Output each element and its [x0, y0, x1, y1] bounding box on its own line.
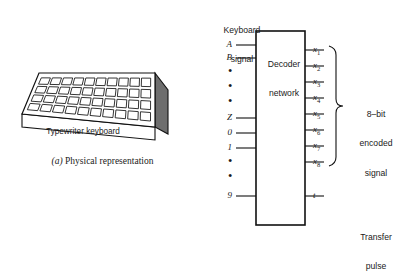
- output-terminal-subscript: 5: [317, 113, 320, 120]
- input-terminal-label: Z: [218, 112, 232, 122]
- keyboard-key: [141, 89, 151, 98]
- input-terminal-label: B: [218, 52, 232, 62]
- output-terminal-subscript: 6: [317, 129, 320, 136]
- input-ellipsis-dot: •: [218, 170, 232, 181]
- output-terminal-subscript: 3: [317, 81, 320, 88]
- keyboard-key: [128, 111, 139, 120]
- keyboard-key: [50, 78, 62, 85]
- typewriter-keyboard-illustration: Typewriter keyboard: [14, 68, 194, 150]
- encoded-signal-label-line1: 8–bit: [345, 110, 407, 120]
- keyboard-key: [128, 100, 138, 109]
- output-terminal-label: x7: [313, 140, 320, 152]
- keyboard-key: [141, 78, 150, 87]
- keyboard-key: [130, 78, 140, 86]
- keyboard-key: [118, 78, 128, 86]
- keyboard-key: [107, 78, 117, 86]
- output-terminal-label: x8: [313, 156, 320, 168]
- output-terminal-label: x4: [313, 92, 320, 104]
- keyboard-key: [115, 110, 126, 119]
- keyboard-key: [103, 109, 114, 118]
- keyboard-key: [90, 108, 101, 116]
- decoder-block-diagram-panel: Keyboard signal Decoder network AB•••Z01…: [205, 0, 411, 250]
- keyboard-key: [31, 95, 44, 102]
- output-terminal-label: x5: [313, 108, 320, 120]
- typewriter-keyboard-label: Typewriter keyboard: [28, 127, 138, 136]
- encoded-signal-label-line2: encoded: [345, 139, 407, 149]
- keyboard-drawing: [14, 68, 194, 150]
- keyboard-key: [104, 99, 115, 107]
- input-terminal-label: 0: [218, 127, 232, 137]
- keyboard-key: [92, 98, 103, 106]
- keyboard-key: [106, 88, 117, 96]
- keyboard-key: [68, 97, 80, 105]
- physical-representation-panel: Typewriter keyboard (a) Physical represe…: [0, 0, 205, 250]
- keyboard-key: [65, 106, 77, 114]
- decoder-network-label: Decoder network: [260, 40, 308, 119]
- keyboard-right-face: [155, 73, 168, 134]
- figure-caption-a-label: (a): [52, 156, 63, 166]
- keyboard-key: [78, 107, 90, 115]
- output-terminal-label: x3: [313, 76, 320, 88]
- keyboard-key: [43, 96, 55, 103]
- input-ellipsis-dot: •: [218, 65, 232, 76]
- keyboard-key: [94, 88, 105, 96]
- transfer-pulse-label: Transfer pulse: [345, 213, 407, 275]
- input-ellipsis-dot: •: [218, 80, 232, 91]
- input-terminal-label: 1: [218, 142, 232, 152]
- output-terminal-label: x6: [313, 124, 320, 136]
- encoded-signal-label: 8–bit encoded signal: [345, 90, 407, 199]
- keyboard-key: [96, 78, 107, 86]
- output-terminal-label: x1: [313, 44, 320, 56]
- keyboard-key: [80, 97, 91, 105]
- transfer-pulse-label-line2: pulse: [345, 262, 407, 272]
- transfer-pulse-label-line1: Transfer: [345, 233, 407, 243]
- keyboard-key: [82, 88, 93, 96]
- figure-caption-a: (a) Physical representation: [0, 156, 205, 166]
- keyboard-key: [58, 87, 70, 94]
- output-terminal-subscript: 4: [317, 97, 320, 104]
- keyboard-key: [141, 101, 151, 110]
- decoder-network-label-line2: network: [260, 89, 308, 99]
- figure-caption-a-text: Physical representation: [65, 156, 153, 166]
- keyboard-key: [61, 78, 72, 85]
- input-terminal-label: A: [218, 39, 232, 49]
- keyboard-key: [52, 105, 64, 113]
- keyboard-key: [40, 104, 53, 111]
- keyboard-key: [84, 78, 95, 85]
- keyboard-key: [129, 89, 139, 98]
- keyboard-key: [70, 87, 81, 94]
- input-ellipsis-dot: •: [218, 95, 232, 106]
- keyboard-key: [27, 103, 40, 110]
- transfer-pulse-terminal-label: t: [313, 190, 316, 200]
- keyboard-key: [117, 89, 127, 97]
- output-terminal-subscript: 8: [317, 161, 320, 168]
- keyboard-signal-label-line1: Keyboard: [214, 26, 270, 36]
- encoded-signal-brace: [329, 46, 343, 166]
- keyboard-key: [140, 112, 150, 121]
- output-terminal-subscript: 7: [317, 145, 320, 152]
- keyboard-key: [55, 96, 67, 103]
- decoder-network-label-line1: Decoder: [260, 60, 308, 70]
- keyboard-key: [47, 87, 59, 94]
- encoded-signal-label-line3: signal: [345, 169, 407, 179]
- output-terminal-subscript: 2: [317, 65, 320, 72]
- keyboard-key: [116, 99, 127, 108]
- output-terminal-subscript: 1: [317, 49, 320, 56]
- input-ellipsis-dot: •: [218, 155, 232, 166]
- keyboard-key: [73, 78, 84, 85]
- output-terminal-label: x2: [313, 60, 320, 72]
- input-terminal-label: 9: [218, 190, 232, 200]
